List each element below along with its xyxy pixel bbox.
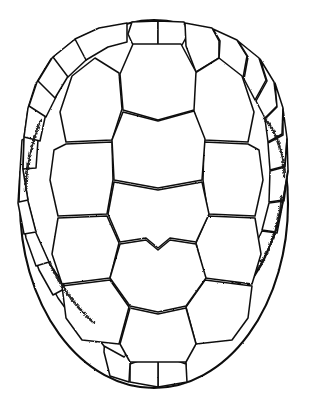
vertebral-scute-v5: Vertebral 5 [120,308,196,362]
pleural-scute-l2: Left pleural 2 [50,142,113,216]
vertebral-scute-v2: Vertebral 2 [112,111,205,188]
pleural-scute-r2: Right pleural 2 [203,142,263,216]
turtle-carapace-diagram: Marginal 1Marginal 2Marginal 3Marginal 4… [0,0,311,410]
marginal-scute-m1: Marginal 1 [128,21,158,45]
figure-root: Marginal 1Marginal 2Marginal 3Marginal 4… [0,0,311,410]
vertebral-scute-v3: Vertebral 3 [108,182,209,248]
marginal-scute-m2: Marginal 2 [158,21,188,45]
vertebral-scute-v1: Vertebral 1 [120,44,196,120]
pleural-scute-r3: Right pleural 3 [196,216,261,284]
pleural-scute-l3: Left pleural 3 [52,216,119,284]
